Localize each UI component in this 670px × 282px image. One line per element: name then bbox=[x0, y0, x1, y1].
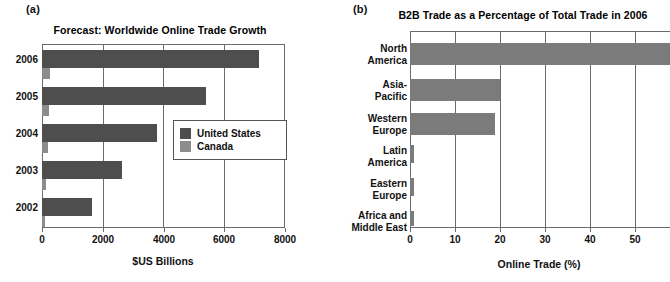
chart-a-ytick-2006: 2006 bbox=[4, 54, 38, 65]
chart-a-legend: United States Canada bbox=[173, 120, 287, 160]
panel-a-tag: (a) bbox=[26, 3, 40, 15]
bar-canada-2006 bbox=[42, 68, 50, 79]
cat-line-1: Eastern bbox=[335, 178, 407, 190]
xticklabel-b-40: 40 bbox=[584, 234, 595, 245]
cat-line-2: Europe bbox=[335, 189, 407, 201]
bar-canada-2004 bbox=[42, 142, 48, 153]
bar-canada-2002 bbox=[42, 216, 45, 227]
bar-asia-pacific bbox=[410, 79, 500, 101]
bar-canada-2003 bbox=[42, 179, 46, 190]
cat-line-1: Asia- bbox=[335, 79, 407, 91]
xtick-b-40 bbox=[590, 228, 591, 232]
cat-line-1: North bbox=[335, 43, 407, 55]
bar-latin-america bbox=[410, 145, 414, 163]
chart-b-ytick-africa-middle-east: Africa and Middle East bbox=[332, 210, 407, 233]
panel-b: (b) B2B Trade as a Percentage of Total T… bbox=[335, 0, 670, 282]
chart-b-ytick-latin-america: Latin America bbox=[335, 145, 407, 168]
xticklabel-a-6000: 6000 bbox=[213, 234, 235, 245]
legend-item-canada: Canada bbox=[180, 141, 279, 152]
xticklabel-a-0: 0 bbox=[39, 234, 45, 245]
legend-swatch-united-states bbox=[180, 128, 191, 139]
chart-a-ytick-2004: 2004 bbox=[4, 128, 38, 139]
bar-africa-middle-east bbox=[410, 211, 414, 226]
xticklabel-a-8000: 8000 bbox=[274, 234, 296, 245]
xtick-b-10 bbox=[455, 228, 456, 232]
xticklabel-a-4000: 4000 bbox=[153, 234, 175, 245]
xticklabel-a-2000: 2000 bbox=[92, 234, 114, 245]
bar-us-2004 bbox=[42, 124, 157, 142]
xticklabel-b-30: 30 bbox=[539, 234, 550, 245]
chart-a-ytick-2005: 2005 bbox=[4, 91, 38, 102]
gridline-4000 bbox=[163, 44, 164, 228]
chart-b-ytick-western-europe: Western Europe bbox=[335, 113, 407, 136]
legend-item-united-states: United States bbox=[180, 128, 279, 139]
bar-north-america bbox=[410, 43, 670, 65]
panel-b-tag: (b) bbox=[353, 3, 368, 15]
xtick-a-4000 bbox=[164, 228, 165, 232]
chart-b-title: B2B Trade as a Percentage of Total Trade… bbox=[377, 9, 669, 21]
xtick-a-0 bbox=[42, 228, 43, 232]
cat-line-2: Middle East bbox=[332, 221, 407, 233]
chart-b-plot-area bbox=[410, 31, 670, 228]
xticklabel-b-20: 20 bbox=[494, 234, 505, 245]
legend-swatch-canada bbox=[180, 141, 191, 152]
chart-a-ytick-2002: 2002 bbox=[4, 202, 38, 213]
bar-canada-2005 bbox=[42, 105, 49, 116]
xtick-a-2000 bbox=[103, 228, 104, 232]
chart-a-title: Forecast: Worldwide Online Trade Growth bbox=[0, 24, 320, 36]
legend-label-united-states: United States bbox=[197, 128, 261, 139]
chart-b-xaxis-title: Online Trade (%) bbox=[498, 258, 581, 270]
cat-line-2: Europe bbox=[335, 124, 407, 136]
chart-b-ytick-eastern-europe: Eastern Europe bbox=[335, 178, 407, 201]
xtick-b-20 bbox=[500, 228, 501, 232]
bar-western-europe bbox=[410, 113, 495, 135]
cat-line-2: America bbox=[335, 156, 407, 168]
xticklabel-b-0: 0 bbox=[407, 234, 413, 245]
cat-line-1: Latin bbox=[335, 145, 407, 157]
chart-a-ytick-2003: 2003 bbox=[4, 165, 38, 176]
legend-label-canada: Canada bbox=[197, 141, 233, 152]
xtick-b-30 bbox=[545, 228, 546, 232]
xtick-a-8000 bbox=[285, 228, 286, 232]
xtick-b-0 bbox=[410, 228, 411, 232]
xticklabel-b-50: 50 bbox=[629, 234, 640, 245]
bar-us-2005 bbox=[42, 87, 206, 105]
bar-us-2002 bbox=[42, 198, 92, 216]
cat-line-1: Western bbox=[335, 113, 407, 125]
chart-a-xaxis-title: $US Billions bbox=[132, 255, 193, 267]
xtick-b-50 bbox=[635, 228, 636, 232]
bar-eastern-europe bbox=[410, 178, 414, 196]
xtick-a-6000 bbox=[224, 228, 225, 232]
chart-b-ytick-north-america: North America bbox=[335, 43, 407, 66]
cat-line-2: America bbox=[335, 54, 407, 66]
chart-b-ytick-asia-pacific: Asia- Pacific bbox=[335, 79, 407, 102]
xticklabel-b-10: 10 bbox=[449, 234, 460, 245]
bar-us-2003 bbox=[42, 161, 122, 179]
bar-us-2006 bbox=[42, 50, 259, 68]
chart-a-plot-area: United States Canada bbox=[42, 44, 285, 228]
cat-line-1: Africa and bbox=[332, 210, 407, 222]
panel-a: (a) Forecast: Worldwide Online Trade Gro… bbox=[0, 0, 335, 282]
cat-line-2: Pacific bbox=[335, 90, 407, 102]
